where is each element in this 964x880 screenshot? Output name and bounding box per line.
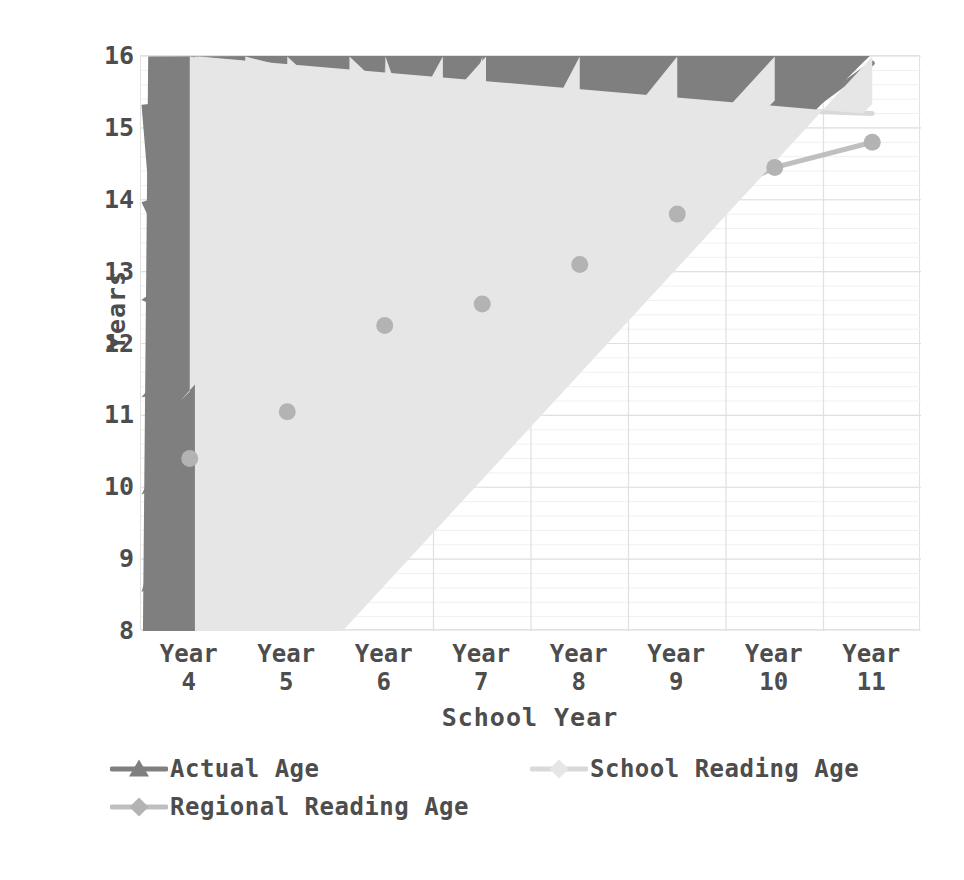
data-point-circle [181, 450, 198, 467]
x-tick-label: Year5 [236, 640, 336, 697]
data-point-diamond [550, 760, 569, 779]
x-tick-label-line: Year [334, 640, 434, 668]
x-tick-label-line: Year [626, 640, 726, 668]
plot-canvas [141, 56, 921, 631]
legend-item[interactable]: School Reading Age [530, 752, 859, 786]
x-axis-tick-labels: Year4Year5Year6Year7Year8Year9Year10Year… [140, 640, 920, 702]
legend-item[interactable]: Actual Age [110, 752, 320, 786]
legend-item[interactable]: Regional Reading Age [110, 790, 469, 824]
legend-swatch-triangle-icon [110, 756, 168, 782]
data-point-circle [279, 403, 296, 420]
plot-area [140, 55, 920, 630]
y-tick-label: 8 [72, 618, 134, 643]
x-tick-label-line: 4 [139, 668, 239, 696]
x-tick-label-line: Year [236, 640, 336, 668]
x-tick-label-line: Year [529, 640, 629, 668]
x-tick-label-line: Year [139, 640, 239, 668]
data-point-circle [669, 206, 686, 223]
x-tick-label-line: 8 [529, 668, 629, 696]
x-tick-label-line: 6 [334, 668, 434, 696]
y-tick-label: 14 [72, 186, 134, 211]
data-point-circle [474, 295, 491, 312]
y-tick-label: 16 [72, 43, 134, 68]
chart-legend: Actual AgeSchool Reading AgeRegional Rea… [110, 752, 900, 832]
y-tick-label: 13 [72, 258, 134, 283]
data-point-diamond [130, 798, 149, 817]
x-axis-title: School Year [140, 703, 920, 732]
x-tick-label: Year10 [724, 640, 824, 697]
x-tick-label: Year11 [821, 640, 921, 697]
y-axis-tick-labels: 8910111213141516 [72, 55, 134, 630]
x-tick-label-line: 7 [431, 668, 531, 696]
y-tick-label: 12 [72, 330, 134, 355]
legend-label: Actual Age [170, 755, 320, 783]
y-tick-label: 15 [72, 114, 134, 139]
legend-label: School Reading Age [590, 755, 859, 783]
x-tick-label-line: Year [821, 640, 921, 668]
legend-label: Regional Reading Age [170, 793, 469, 821]
x-tick-label-line: 5 [236, 668, 336, 696]
x-tick-label: Year8 [529, 640, 629, 697]
reading-age-line-chart: Years 8910111213141516 Year4Year5Year6Ye… [0, 0, 964, 880]
x-tick-label-line: 10 [724, 668, 824, 696]
x-tick-label: Year7 [431, 640, 531, 697]
x-tick-label: Year4 [139, 640, 239, 697]
y-tick-label: 10 [72, 474, 134, 499]
y-tick-label: 11 [72, 402, 134, 427]
legend-swatch-circle-icon [110, 794, 168, 820]
data-point-circle [571, 256, 588, 273]
x-tick-label-line: Year [724, 640, 824, 668]
legend-swatch-diamond-icon [530, 756, 588, 782]
x-tick-label-line: 9 [626, 668, 726, 696]
x-tick-label-line: 11 [821, 668, 921, 696]
data-point-circle [864, 134, 881, 151]
data-point-circle [766, 159, 783, 176]
x-tick-label: Year6 [334, 640, 434, 697]
x-tick-label-line: Year [431, 640, 531, 668]
y-tick-label: 9 [72, 546, 134, 571]
x-tick-label: Year9 [626, 640, 726, 697]
data-point-circle [376, 317, 393, 334]
